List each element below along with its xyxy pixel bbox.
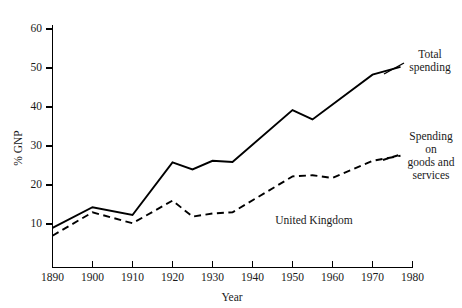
x-tick-label-1930: 1930: [201, 271, 224, 283]
annotation-total-spending-line2: spending: [409, 61, 451, 74]
series-line-total-spending: [53, 67, 401, 228]
y-tick-label-30: 30: [31, 139, 43, 151]
x-tick-label-1920: 1920: [161, 271, 184, 283]
line-chart-canvas: 60 50 40 30 20 10 1890 1900 1910 1920 19…: [0, 0, 462, 308]
x-tick-label-1950: 1950: [281, 271, 304, 283]
y-tick-label-40: 40: [31, 100, 43, 112]
leader-line-total-spending-icon: [384, 63, 404, 74]
x-tick-label-1890: 1890: [41, 271, 64, 283]
annotation-total-spending: Total spending: [384, 48, 451, 74]
y-tick-label-10: 10: [31, 217, 43, 229]
x-tick-label-1970: 1970: [361, 271, 384, 283]
x-tick-label-1980: 1980: [401, 271, 424, 283]
x-tick-labels: 1890 1900 1910 1920 1930 1940 1950 1960 …: [41, 271, 424, 283]
y-tick-label-20: 20: [31, 178, 43, 190]
chart-figure: 60 50 40 30 20 10 1890 1900 1910 1920 19…: [0, 0, 462, 308]
annotation-goods-services-line2: on: [425, 143, 437, 155]
y-tick-label-60: 60: [31, 22, 43, 34]
annotation-goods-services-line1: Spending: [409, 130, 453, 143]
y-axis-title: % GNP: [12, 130, 24, 165]
y-tick-labels: 60 50 40 30 20 10: [31, 22, 43, 229]
annotation-goods-services-line3: goods and: [408, 156, 455, 169]
y-tick-label-50: 50: [31, 61, 43, 73]
x-tick-label-1910: 1910: [121, 271, 144, 283]
axis-group: [46, 25, 413, 268]
annotation-goods-and-services: Spending on goods and services: [383, 130, 455, 181]
x-tick-label-1940: 1940: [241, 271, 264, 283]
x-tick-label-1900: 1900: [81, 271, 104, 283]
annotation-goods-services-line4: services: [412, 169, 450, 181]
x-axis-title: Year: [221, 291, 242, 303]
annotation-country-label: United Kingdom: [275, 214, 353, 227]
annotation-total-spending-line1: Total: [418, 48, 441, 60]
x-tick-label-1960: 1960: [321, 271, 344, 283]
